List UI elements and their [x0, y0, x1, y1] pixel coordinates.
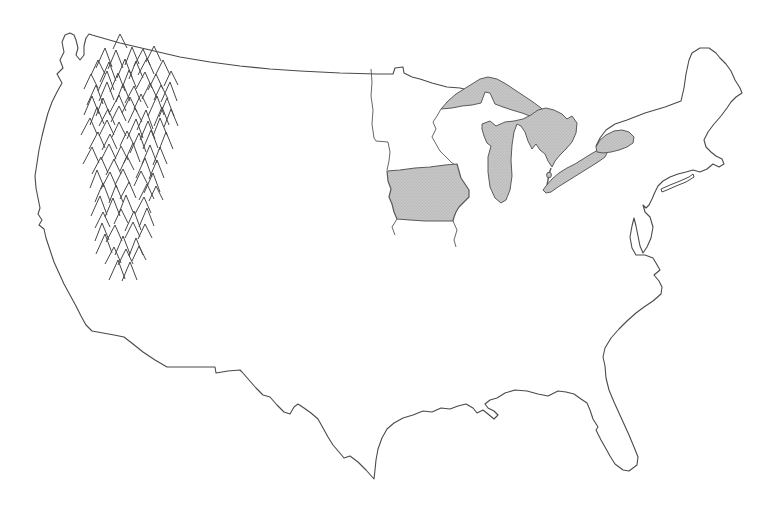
lake-michigan-huron [482, 108, 577, 203]
mountain-chevron [114, 209, 128, 224]
mountain-chevron [153, 147, 167, 165]
river-tail-southeast [453, 221, 457, 247]
mountain-chevron [84, 74, 98, 89]
mountain-chevron [120, 182, 136, 199]
mountain-chevron [134, 171, 148, 186]
mountain-symbols-group [81, 34, 178, 281]
mountain-chevron [105, 198, 120, 217]
mountain-chevron [124, 143, 140, 163]
mountain-chevron [115, 169, 130, 185]
mountain-chevron [96, 98, 110, 116]
mountain-chevron [91, 196, 107, 216]
mountain-chevron [109, 260, 125, 280]
mountain-chevron [130, 133, 146, 153]
mountain-chevron [83, 147, 99, 164]
mountain-chevron [91, 60, 105, 75]
mountain-chevron [146, 46, 161, 62]
lake-st-clair [547, 172, 552, 178]
mountain-chevron [102, 134, 117, 150]
mountain-chevron [161, 82, 177, 102]
mountain-chevron [159, 132, 173, 150]
long-island-outline [661, 174, 694, 192]
mountain-chevron [153, 118, 167, 136]
mountain-chevron [109, 185, 123, 203]
mississippi-river-line [432, 109, 455, 165]
mountain-chevron [125, 222, 140, 238]
us-map [0, 0, 769, 510]
state-iowa [387, 164, 469, 221]
mountain-chevron [96, 234, 112, 254]
mountain-chevron [139, 208, 154, 227]
mountain-chevron [92, 157, 108, 174]
mountain-chevron [142, 83, 157, 99]
mountain-chevron [136, 158, 152, 178]
lake-ontario [596, 130, 634, 153]
mountain-chevron [100, 62, 116, 82]
mountain-chevron [95, 212, 110, 228]
mountain-chevron [132, 246, 146, 261]
river-tail-southwest [392, 219, 397, 235]
minnesota-border-line [371, 69, 390, 170]
mountain-chevron [155, 60, 170, 76]
us-outline [35, 33, 742, 479]
mountain-chevron [148, 96, 164, 116]
mountain-chevron [148, 74, 163, 90]
page [0, 0, 769, 510]
mountain-chevron [81, 118, 97, 135]
mountain-chevron [84, 96, 99, 115]
mountain-chevron [89, 132, 105, 149]
